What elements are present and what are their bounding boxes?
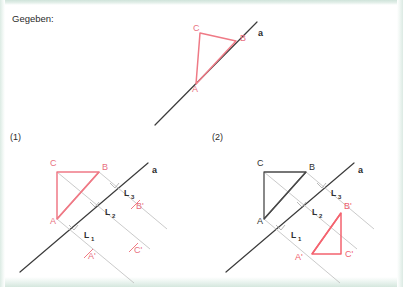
svg-text:L: L [291, 230, 296, 240]
step-1-vertex-label-c: C [50, 158, 57, 168]
step-2-axis-label: a [358, 165, 364, 175]
svg-text:L: L [124, 188, 129, 198]
svg-text:2: 2 [319, 213, 323, 219]
given-axis-label: a [258, 28, 264, 38]
step-1-image-label-c-prime: C' [134, 245, 142, 255]
step-1-figure: (1) a C B A A' B' [10, 132, 167, 283]
step-1-axis-line [20, 163, 148, 272]
worksheet-page: Gegeben: a C B A (1) a [0, 0, 403, 287]
step-2-vertex-label-b: B [309, 162, 315, 172]
step-1-axis-label: a [152, 165, 158, 175]
step-2-perpendicular-3 [306, 172, 374, 229]
step-2-perpendicular-1 [264, 219, 340, 283]
step-1-perpendicular-label-3: L 3 [124, 188, 135, 200]
svg-text:1: 1 [91, 236, 95, 242]
step-2-triangle-hypotenuse [264, 172, 306, 219]
step-2-perpendicular-label-3: L 3 [331, 188, 342, 200]
given-triangle-abc [196, 33, 236, 84]
step-1-perpendicular-3 [99, 172, 167, 229]
given-vertex-label-a: A [192, 84, 198, 94]
svg-text:L: L [105, 207, 110, 217]
step-2-perpendicular-label-2: L 2 [312, 207, 323, 219]
given-figure: a C B A [155, 22, 264, 125]
step-2-vertex-label-c: C [257, 158, 264, 168]
step-2-image-label-b-prime: B' [344, 201, 352, 211]
step-2-triangle-image-hypotenuse [312, 213, 341, 254]
svg-text:2: 2 [112, 213, 116, 219]
given-vertex-label-b: B [240, 33, 246, 43]
page-heading: Gegeben: [12, 13, 54, 24]
step-1-vertex-label-b: B [102, 162, 108, 172]
step-1-vertex-label-a: A [50, 216, 56, 226]
step-1-perpendicular-label-2: L 2 [105, 207, 116, 219]
step-2-figure: (2) a A' B' C' C B A [212, 132, 374, 283]
svg-text:3: 3 [338, 194, 342, 200]
step-2-label: (2) [212, 132, 223, 142]
step-1-triangle-hypotenuse [57, 172, 99, 219]
geometry-figure-canvas: Gegeben: a C B A (1) a [0, 0, 403, 287]
step-1-label: (1) [10, 132, 21, 142]
step-2-image-label-c-prime: C' [345, 249, 353, 259]
step-1-perpendicular-label-1: L 1 [84, 230, 95, 242]
svg-text:L: L [312, 207, 317, 217]
step-2-axis-line [226, 163, 354, 272]
given-vertex-label-c: C [193, 23, 200, 33]
step-2-image-label-a-prime: A' [295, 252, 303, 262]
step-2-perpendicular-label-1: L 1 [291, 230, 302, 242]
svg-text:1: 1 [298, 236, 302, 242]
step-1-image-label-a-prime: A' [88, 251, 96, 261]
step-1-image-label-b-prime: B' [136, 201, 144, 211]
svg-text:3: 3 [131, 194, 135, 200]
svg-text:L: L [331, 188, 336, 198]
svg-text:L: L [84, 230, 89, 240]
step-2-vertex-label-a: A [257, 216, 263, 226]
